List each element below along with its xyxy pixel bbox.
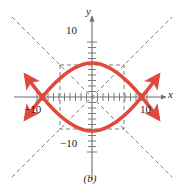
x-tick-label-negative: −10 xyxy=(24,104,41,115)
x-axis-label: x xyxy=(168,89,173,100)
y-tick-label-negative: −10 xyxy=(60,138,77,149)
x-tick-label-positive: 10 xyxy=(140,104,151,115)
hyperbola-plot xyxy=(0,0,180,193)
figure-caption: (b) xyxy=(0,173,180,184)
y-axis-label: y xyxy=(86,6,91,17)
hyperbola-figure: y x 10 −10 −10 10 (b) xyxy=(0,0,180,193)
y-tick-label-positive: 10 xyxy=(66,25,77,36)
